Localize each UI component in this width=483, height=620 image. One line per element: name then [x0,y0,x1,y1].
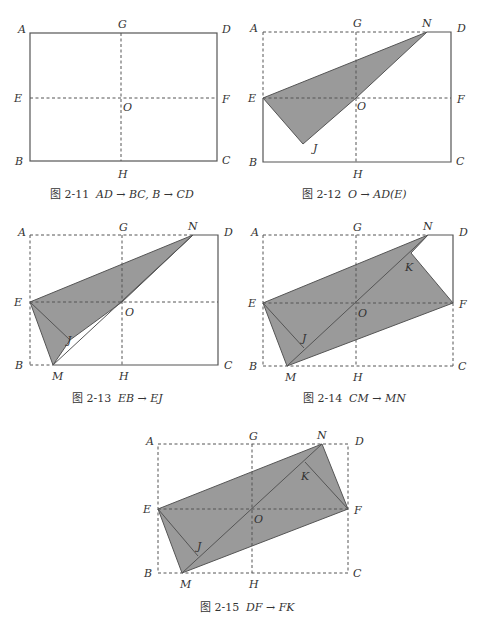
caption-number: 图 2-15 [200,601,239,614]
figure-2-12: A G N D E O F J B H C 图 2-12 O → AD(E) [247,17,466,201]
caption-math: AD → BC, B → CD [95,188,194,201]
label-j: J [65,334,72,347]
label-f: F [221,93,230,106]
label-h: H [117,168,128,181]
figure-2-15: A G N D K E O F J B M H C 图 2-15 DF → FK [142,429,364,614]
label-m: M [284,371,297,384]
label-k: K [300,470,310,483]
figure-2-11: A G D E O F B H C 图 2-11 AD → BC, B → CD [13,18,231,201]
label-o: O [123,101,132,114]
figure-2-13: A G N D E O J B M H C 图 2-13 EB → EJ [13,220,233,405]
label-n: N [422,220,433,233]
label-e: E [247,297,256,310]
caption-number: 图 2-13 [72,392,111,405]
label-a: A [145,435,154,448]
label-h: H [118,370,129,383]
label-h: H [248,578,259,591]
label-c: C [353,567,362,580]
label-h: H [352,168,363,181]
label-k: K [404,261,414,274]
caption-number: 图 2-12 [302,188,341,201]
label-b: B [248,360,257,373]
label-a: A [17,226,26,239]
label-o: O [358,307,367,320]
label-n: N [421,17,432,30]
label-m: M [179,578,192,591]
label-g: G [119,221,128,234]
label-e: E [247,92,256,105]
caption-math: EB → EJ [117,392,163,405]
label-a: A [250,226,259,239]
label-j: J [311,142,318,155]
label-f: F [456,93,465,106]
label-f: F [458,298,467,311]
label-c: C [456,155,465,168]
label-d: D [458,226,468,239]
label-g: G [353,17,362,30]
label-c: C [224,359,233,372]
label-d: D [221,23,231,36]
label-f: F [353,504,362,517]
label-j: J [195,540,202,553]
label-e: E [13,296,22,309]
label-b: B [14,359,23,372]
caption-math: O → AD(E) [348,188,407,201]
figure-2-14: A G N D K E O F J B M H C 图 2-14 CM → MN [247,220,468,405]
caption-number: 图 2-14 [303,392,342,405]
label-e: E [13,92,22,105]
folded-flap [263,32,427,144]
label-a: A [249,22,258,35]
caption-number: 图 2-11 [50,188,89,201]
label-d: D [456,22,466,35]
folded-flap [30,235,193,365]
label-g: G [353,221,362,234]
label-g: G [118,18,127,31]
label-b: B [143,567,152,580]
caption-math: DF → FK [245,601,295,614]
label-g: G [249,430,258,443]
label-b: B [248,156,257,169]
label-a: A [17,23,26,36]
label-h: H [352,371,363,384]
label-o: O [357,100,366,113]
label-e: E [142,503,151,516]
label-b: B [14,155,23,168]
label-m: M [51,370,64,383]
diagram-canvas: A G D E O F B H C 图 2-11 AD → BC, B → CD… [0,0,483,620]
label-d: D [223,226,233,239]
label-d: D [354,435,364,448]
label-j: J [300,332,307,345]
label-c: C [222,154,231,167]
label-o: O [254,513,263,526]
label-o: O [125,306,134,319]
caption-math: CM → MN [349,392,406,405]
rectangle-abcd [30,33,217,161]
label-n: N [187,220,198,233]
label-c: C [458,360,467,373]
label-n: N [316,429,327,442]
